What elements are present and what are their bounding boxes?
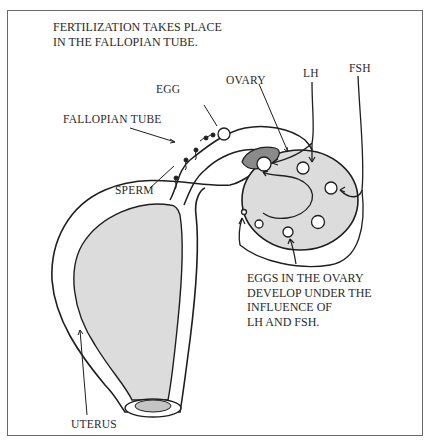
label-fsh: FSH: [349, 61, 371, 75]
egg-in-tube: [218, 128, 230, 140]
follicle: [325, 182, 337, 194]
label-egg: EGG: [156, 82, 180, 96]
follicle: [255, 220, 263, 228]
label-sperm: SPERM: [115, 183, 154, 197]
uterus-cavity: [74, 204, 182, 400]
cervix-inner: [135, 400, 171, 412]
diagram-title: FERTILIZATION TAKES PLACE IN THE FALLOPI…: [53, 20, 222, 49]
caption-line: LH AND FSH.: [247, 315, 372, 330]
caption-line: EGGS IN THE OVARY: [247, 271, 372, 286]
fallopian-tube-leader: [130, 128, 175, 142]
title-line: FERTILIZATION TAKES PLACE: [53, 20, 222, 35]
sperm-group: [174, 133, 215, 189]
label-lh: LH: [303, 66, 319, 80]
uterus-leader: [80, 330, 87, 415]
caption-line: DEVELOP UNDER THE: [247, 286, 372, 301]
follicle: [297, 162, 309, 174]
ovary-caption: EGGS IN THE OVARY DEVELOP UNDER THE INFL…: [247, 271, 372, 329]
title-line: IN THE FALLOPIAN TUBE.: [53, 35, 222, 50]
follicle-mature: [257, 157, 271, 171]
label-uterus: UTERUS: [71, 417, 117, 431]
follicle: [312, 216, 325, 229]
follicle-small: [242, 210, 247, 215]
label-fallopian-tube: FALLOPIAN TUBE: [63, 112, 162, 126]
lh-line: [312, 82, 313, 143]
egg-leader: [204, 105, 217, 126]
label-ovary: OVARY: [226, 73, 266, 87]
follicle: [283, 227, 293, 237]
caption-line: INFLUENCE OF: [247, 300, 372, 315]
ovary-leader: [259, 84, 288, 152]
